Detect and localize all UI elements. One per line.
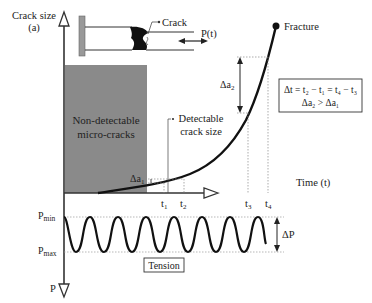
delta-a2-arrow xyxy=(237,57,243,113)
pmin-label: Pmin xyxy=(38,210,55,223)
cyclic-load-wave xyxy=(64,217,266,252)
crack-label: Crack xyxy=(162,17,188,28)
detectable-label-line2: crack size xyxy=(180,126,222,137)
load-label: P(t) xyxy=(201,28,217,40)
t1-label: t1 xyxy=(161,198,168,211)
delta-p-arrow xyxy=(274,217,280,252)
delta-a2-label: Δa2 xyxy=(220,79,235,92)
fracture-point xyxy=(273,23,280,30)
delta-a-inequality: Δa₂ > Δa₁ xyxy=(302,98,339,108)
non-detectable-label-line2: micro-cracks xyxy=(77,128,134,140)
y-axis-label-line1: Crack size xyxy=(12,10,56,21)
p-axis-label: P xyxy=(50,283,56,294)
pmax-label: Pmax xyxy=(38,245,57,258)
fatigue-crack-growth-diagram: Non-detectable micro-cracks Crack size (… xyxy=(0,0,372,303)
delta-t-equation: Δt = t₂ − t₁ = t₄ − t₃ xyxy=(284,85,357,95)
down-arrow-icon xyxy=(59,284,69,297)
specimen-schematic xyxy=(79,16,208,56)
tension-label: Tension xyxy=(148,260,180,271)
y-axis-label-line2: (a) xyxy=(28,22,40,34)
up-arrow-icon xyxy=(59,12,69,26)
right-arrow-icon xyxy=(204,188,218,198)
t3-label: t3 xyxy=(245,198,252,211)
t4-label: t4 xyxy=(265,198,272,211)
crack-notch-shape xyxy=(130,27,148,50)
t2-label: t2 xyxy=(180,198,187,211)
fracture-label: Fracture xyxy=(284,21,319,32)
time-marker-lines xyxy=(148,57,268,193)
x-axis-label: Time (t) xyxy=(296,177,331,189)
delta-p-label: ΔP xyxy=(282,229,295,240)
detectable-label-line1: Detectable xyxy=(179,113,224,124)
load-axis xyxy=(59,193,69,297)
non-detectable-label-line1: Non-detectable xyxy=(72,114,139,126)
wall-support xyxy=(79,16,85,56)
